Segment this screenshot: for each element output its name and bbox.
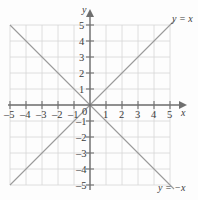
x-tick-label-pos4: 4	[151, 110, 156, 121]
graph-canvas	[0, 0, 198, 200]
y-tick-label-neg3: –3	[76, 149, 87, 160]
x-tick-label-neg2: –2	[52, 110, 63, 121]
line-y-equals-x	[10, 21, 174, 185]
line-label-y-equals-negative-x: y = −x	[158, 183, 185, 193]
x-tick-label-pos5: 5	[167, 110, 172, 121]
y-tick-label-neg2: –2	[76, 133, 87, 144]
y-tick-label-pos1: 1	[79, 85, 84, 96]
x-tick-label-pos3: 3	[135, 110, 140, 121]
y-tick-label-neg1: –1	[76, 117, 87, 128]
x-tick-label-pos1: 1	[103, 110, 108, 121]
x-tick-label-pos2: 2	[119, 110, 124, 121]
y-tick-label-neg5: –5	[76, 181, 87, 192]
origin-label: 0	[82, 107, 87, 118]
y-axis	[86, 16, 94, 190]
y-axis-label: y	[82, 5, 86, 15]
y-tick-label-pos2: 2	[79, 69, 84, 80]
x-tick-label-neg3: –3	[36, 110, 47, 121]
x-axis	[8, 101, 180, 109]
coordinate-plane-figure: –5 –4 –3 –2 –1 1 2 3 4 5 5 4 3 2 1 –1 –2…	[0, 0, 198, 200]
x-tick-label-neg5: –5	[4, 110, 15, 121]
line-y-equals-negative-x	[10, 25, 174, 189]
line-label-y-equals-x: y = x	[172, 14, 193, 24]
y-tick-label-neg4: –4	[76, 165, 87, 176]
y-tick-label-pos5: 5	[79, 21, 84, 32]
x-axis-label: x	[181, 108, 185, 118]
y-tick-label-pos4: 4	[79, 37, 84, 48]
x-tick-label-neg4: –4	[20, 110, 31, 121]
y-tick-label-pos3: 3	[79, 53, 84, 64]
